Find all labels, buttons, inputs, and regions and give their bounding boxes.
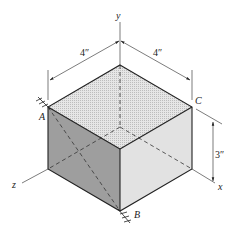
dim-label-left: 4″: [80, 47, 89, 58]
y-axis-label: y: [115, 10, 121, 21]
dim-label-height: 3″: [215, 149, 224, 160]
point-a-label: A: [38, 111, 46, 122]
point-b-label: B: [134, 209, 140, 220]
z-axis-label: z: [11, 179, 16, 190]
dim-label-right: 4″: [153, 47, 162, 58]
x-axis-label: x: [217, 181, 223, 192]
ext-line-top-right: [196, 109, 222, 124]
x-axis: [192, 169, 215, 183]
support-b-hatch-icon: [118, 209, 131, 223]
z-axis: [22, 169, 48, 183]
block-diagram: y x z 4″ 4″ 3″ A C B: [0, 0, 239, 239]
point-c-label: C: [195, 95, 202, 106]
